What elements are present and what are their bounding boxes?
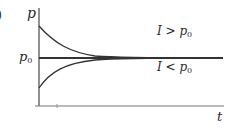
lower-curve-label: I < p0 [157,61,192,75]
upper-curve-label-main: I > p [157,24,187,38]
upper-curve-label: I > p0 [157,25,192,39]
lower-curve-label-sub: 0 [187,66,192,75]
lower-curve-label-main: I < p [157,60,187,74]
p0-label-sub: 0 [27,56,32,65]
upper-curve-label-sub: 0 [187,30,192,39]
x-axis-label: t [217,110,222,123]
p0-label: p0 [19,50,32,65]
y-axis-label: p [27,6,36,20]
